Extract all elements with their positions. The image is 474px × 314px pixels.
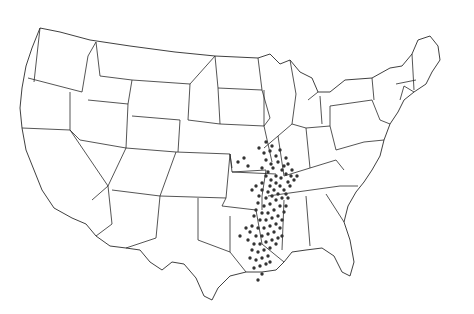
occurrence-dot [282, 188, 285, 191]
occurrence-dot [290, 168, 293, 171]
occurrence-dot [272, 230, 275, 233]
occurrence-dot [252, 266, 255, 269]
occurrence-dot [258, 242, 261, 245]
occurrence-dot [260, 211, 263, 214]
occurrence-dot [254, 234, 257, 237]
occurrence-dot [264, 218, 267, 221]
occurrence-dot [264, 262, 267, 265]
occurrence-dot [238, 234, 241, 237]
occurrence-dot [276, 214, 279, 217]
occurrence-dot [256, 278, 259, 281]
occurrence-dot [284, 156, 287, 159]
occurrence-dot [278, 148, 281, 151]
occurrence-dot [246, 238, 249, 241]
occurrence-dot [268, 224, 271, 227]
occurrence-dot [270, 194, 273, 197]
occurrence-dot [258, 218, 261, 221]
occurrence-dot [236, 160, 239, 163]
occurrence-dot [256, 201, 259, 204]
occurrence-dot [280, 234, 283, 237]
occurrence-dot [266, 232, 269, 235]
occurrence-dot [262, 226, 265, 229]
occurrence-dot [252, 214, 255, 217]
occurrence-dot [260, 181, 263, 184]
occurrence-dot [270, 238, 273, 241]
occurrence-dot [252, 242, 255, 245]
occurrence-dot [260, 256, 263, 259]
occurrence-dot [268, 202, 271, 205]
occurrence-dot [282, 164, 285, 167]
occurrence-dot [264, 140, 267, 143]
occurrence-dot [257, 146, 260, 149]
occurrence-dot [260, 272, 263, 275]
occurrence-dot [278, 184, 281, 187]
occurrence-dot [286, 180, 289, 183]
occurrence-dot [282, 210, 285, 213]
occurrence-dot [260, 234, 263, 237]
occurrence-dot [254, 208, 257, 211]
occurrence-dot [250, 248, 253, 251]
occurrence-dot [269, 162, 272, 165]
occurrence-dot [244, 226, 247, 229]
occurrence-dot [280, 218, 283, 221]
occurrence-dot [276, 236, 279, 239]
occurrence-dot [246, 164, 249, 167]
occurrence-dot [262, 248, 265, 251]
occurrence-dot [264, 196, 267, 199]
occurrence-dot [264, 174, 267, 177]
occurrence-dot [257, 194, 260, 197]
occurrence-dot [268, 246, 271, 249]
occurrence-dot [268, 149, 271, 152]
occurrence-dot [260, 166, 263, 169]
occurrence-dot [269, 178, 272, 181]
state-outlines [20, 28, 440, 300]
occurrence-dot [258, 264, 261, 267]
occurrence-dot [256, 250, 259, 253]
occurrence-dot [266, 254, 269, 257]
us-outline [20, 28, 440, 300]
occurrence-dot [250, 224, 253, 227]
occurrence-dot [248, 256, 251, 259]
occurrence-dot [270, 216, 273, 219]
occurrence-dot [242, 156, 245, 159]
occurrence-dot [286, 196, 289, 199]
occurrence-dot [264, 158, 267, 161]
occurrence-dot [280, 168, 283, 171]
occurrence-dot [295, 174, 298, 177]
occurrence-dot [278, 204, 281, 207]
occurrence-dot [266, 170, 269, 173]
occurrence-dot [262, 151, 265, 154]
occurrence-dot [272, 188, 275, 191]
occurrence-dot [260, 188, 263, 191]
occurrence-dot [250, 188, 253, 191]
occurrence-dot [274, 222, 277, 225]
occurrence-dot [278, 226, 281, 229]
occurrence-dot [271, 166, 274, 169]
us-map [0, 0, 474, 314]
occurrence-dot [276, 192, 279, 195]
occurrence-dot [254, 184, 257, 187]
occurrence-dot [266, 190, 269, 193]
occurrence-dot [276, 160, 279, 163]
occurrence-dot [280, 196, 283, 199]
occurrence-dot [292, 178, 295, 181]
occurrence-dot [288, 184, 291, 187]
occurrence-dot [274, 154, 277, 157]
occurrence-dot [262, 204, 265, 207]
occurrence-dot [264, 240, 267, 243]
occurrence-dot [266, 211, 269, 214]
occurrence-dot [274, 181, 277, 184]
occurrence-dot [270, 144, 273, 147]
occurrence-dot [254, 258, 257, 261]
occurrence-dot [268, 184, 271, 187]
occurrence-dot [268, 260, 271, 263]
occurrence-dot [279, 176, 282, 179]
occurrence-dot [289, 174, 292, 177]
occurrence-dot [284, 172, 287, 175]
occurrence-dot [272, 208, 275, 211]
occurrence-dot [284, 204, 287, 207]
occurrence-dot [248, 230, 251, 233]
occurrence-dot [274, 198, 277, 201]
occurrence-dot [284, 192, 287, 195]
occurrence-dot [256, 226, 259, 229]
